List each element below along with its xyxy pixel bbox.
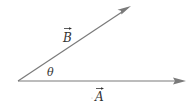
vector-b-label-text: B bbox=[62, 31, 72, 45]
vector-b-line bbox=[18, 10, 125, 81]
vector-b bbox=[18, 6, 131, 81]
vector-b-label: B bbox=[62, 27, 72, 45]
vector-diagram: B θ A bbox=[0, 0, 196, 106]
vector-b-label-arrowhead-icon bbox=[69, 27, 72, 30]
angle-theta-label: θ bbox=[47, 66, 54, 79]
vector-a-label: A bbox=[94, 87, 104, 104]
vector-a-label-text: A bbox=[94, 90, 104, 104]
speck bbox=[91, 97, 92, 98]
vector-a bbox=[18, 78, 186, 85]
